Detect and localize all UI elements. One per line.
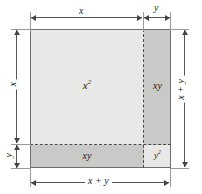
label-y-squared-exponent: 2 xyxy=(158,149,161,155)
arrow-down-icon xyxy=(14,163,20,168)
arrow-up-icon xyxy=(182,30,188,35)
arrow-left-icon xyxy=(31,15,36,21)
dimension-line-top-x xyxy=(31,17,142,18)
label-xy-bottom: xy xyxy=(30,151,144,161)
arrow-down-icon xyxy=(14,138,20,143)
dimension-label-top-x: x xyxy=(76,6,86,16)
dimension-label-left-y: y xyxy=(4,150,14,160)
extension-line-right-bottom xyxy=(170,168,189,169)
label-xy-right: xy xyxy=(144,81,171,91)
label-x-squared-exponent: 2 xyxy=(88,78,91,85)
arrow-right-icon xyxy=(165,15,170,21)
arrow-left-icon xyxy=(144,15,149,21)
dimension-line-top-y xyxy=(144,17,170,18)
dimension-line-left-y xyxy=(16,145,17,168)
algebra-square-diagram: x2 xy xy y2 x y x y x + y xyxy=(0,0,202,194)
dimension-label-top-y: y xyxy=(151,3,161,13)
arrow-right-icon xyxy=(137,15,142,21)
arrow-up-icon xyxy=(14,30,20,35)
arrow-down-icon xyxy=(182,162,188,167)
arrow-up-icon xyxy=(14,145,20,150)
dimension-label-left-x: x xyxy=(8,79,18,89)
extension-line-left-bottom xyxy=(11,168,31,169)
dimension-label-bottom-total: x + y xyxy=(85,176,112,186)
label-xy-right-text: xy xyxy=(153,80,162,91)
label-y-squared: y2 xyxy=(144,151,171,160)
extension-line-bottom-right xyxy=(170,168,171,187)
label-xy-bottom-text: xy xyxy=(83,150,92,161)
arrow-right-icon xyxy=(164,180,169,186)
arrow-left-icon xyxy=(31,180,36,186)
dimension-label-right-total: x + y xyxy=(176,76,186,103)
